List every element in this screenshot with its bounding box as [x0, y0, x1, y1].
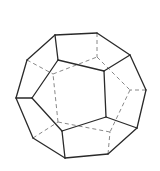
dodecahedron-svg: [0, 0, 160, 171]
visible-edge-CD: [130, 55, 146, 90]
visible-edge-BC: [97, 33, 130, 55]
visible-edge-HI: [16, 98, 33, 138]
visible-edge-EM: [106, 117, 137, 128]
visible-edge-GN: [62, 131, 65, 158]
visible-edge-JA: [27, 35, 55, 60]
hidden-edge-HS: [33, 122, 58, 138]
visible-edge-DE: [137, 90, 146, 128]
visible-edges: [16, 33, 146, 158]
hidden-edge-FR: [108, 132, 110, 154]
visible-edge-FG: [65, 154, 108, 158]
visible-edge-AK: [55, 35, 58, 60]
visible-edge-LM: [104, 71, 106, 117]
visible-edge-IJ: [16, 60, 27, 98]
hidden-edge-PQ: [97, 57, 130, 90]
visible-edge-OK: [32, 60, 58, 98]
visible-edge-KL: [58, 60, 104, 71]
visible-edge-CL: [104, 55, 130, 71]
visible-edge-GH: [33, 138, 65, 158]
dodecahedron-figure: [0, 0, 160, 171]
visible-edge-AB: [55, 33, 97, 35]
hidden-edge-TP: [53, 57, 97, 74]
hidden-edge-ST: [53, 74, 58, 122]
hidden-edge-QR: [110, 90, 130, 132]
visible-edge-EF: [108, 128, 137, 154]
